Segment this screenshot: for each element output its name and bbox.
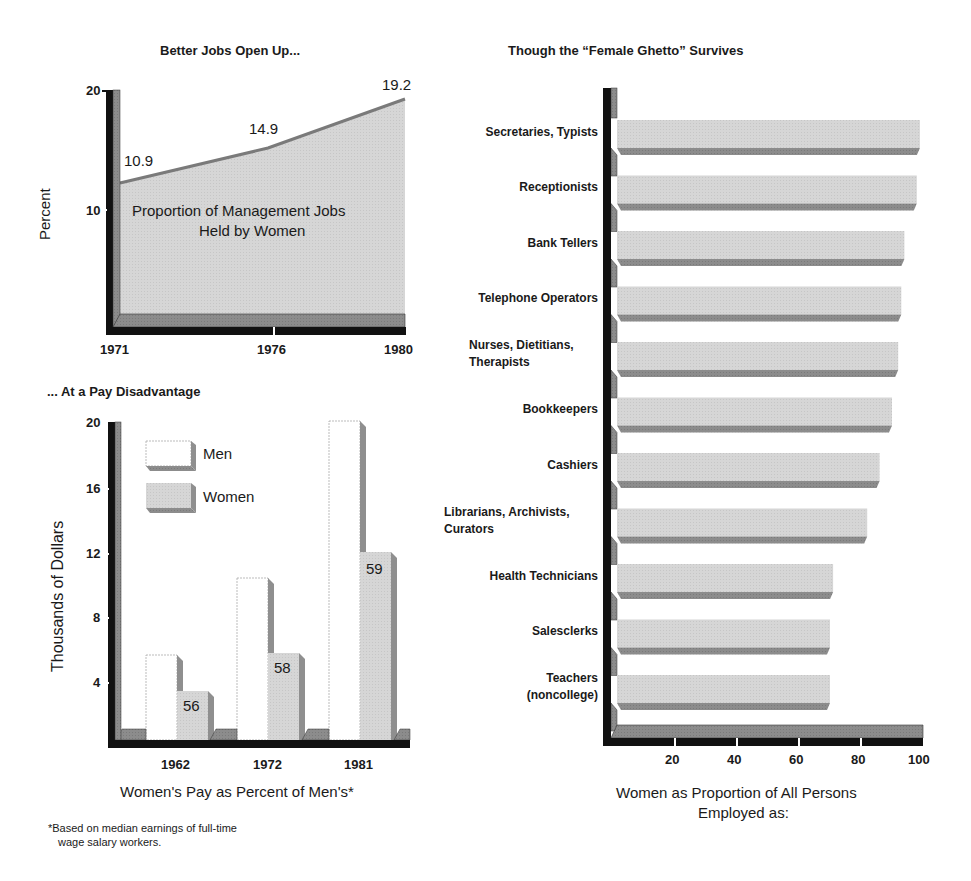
pay-y-tick-16: 16 [86, 481, 100, 496]
occupation-label: Cashiers [547, 457, 598, 474]
point-label-1971: 10.9 [124, 152, 153, 169]
x-tick-1971: 1971 [100, 342, 129, 357]
legend-women-label: Women [203, 488, 254, 505]
legend-women-swatch [146, 483, 196, 513]
x-tick-1980: 1980 [384, 342, 413, 357]
occupation-bar [617, 176, 917, 204]
area-label-line1: Proportion of Management Jobs [132, 202, 345, 219]
occupation-bar [617, 675, 830, 703]
occupation-bar [617, 620, 830, 648]
occupation-label: Bookkeepers [523, 401, 598, 418]
pay-y-axis-label: Thousands of Dollars [49, 521, 67, 672]
point-label-1976: 14.9 [249, 120, 278, 137]
y-axis-dark [106, 90, 113, 335]
occ-x-axis-dark [603, 738, 923, 746]
footnote-line2: wage salary workers. [58, 836, 161, 848]
occupation-label: Receptionists [519, 179, 598, 196]
pay-x-tick-1981: 1981 [344, 757, 373, 772]
pay-y-tick-12: 12 [86, 546, 100, 561]
occupation-label: Salesclerks [532, 623, 598, 640]
occupation-label: Bank Tellers [528, 235, 598, 252]
occupation-bar [617, 231, 904, 259]
pay-x-axis-label: Women's Pay as Percent of Men's* [120, 783, 354, 800]
occ-x-tick-40: 40 [727, 752, 741, 767]
y-axis-label-percent: Percent [36, 188, 53, 240]
occupation-label: Librarians, Archivists,Curators [444, 504, 570, 538]
area-label-line2: Held by Women [199, 222, 305, 239]
pay-y-axis-side [115, 422, 121, 740]
pct-label-1962: 56 [183, 697, 200, 714]
occupation-bars [611, 120, 920, 731]
pct-label-1972: 58 [274, 659, 291, 676]
occupation-bar [617, 342, 898, 370]
footnote-line1: *Based on median earnings of full-time [48, 822, 237, 834]
pay-y-tick-8: 8 [93, 610, 100, 625]
occupation-bar [617, 398, 892, 426]
pct-label-1981: 59 [366, 560, 383, 577]
pay-chart-title: ... At a Pay Disadvantage [47, 384, 200, 399]
occupation-bar [617, 453, 880, 481]
occ-x-axis-label-line1: Women as Proportion of All Persons [616, 784, 857, 801]
bar-men-1972 [237, 578, 268, 740]
occ-x-tick-80: 80 [851, 752, 865, 767]
pay-x-tick-1972: 1972 [253, 757, 282, 772]
x-tick-1976: 1976 [257, 342, 286, 357]
pay-y-tick-4: 4 [93, 675, 100, 690]
legend-men-label: Men [203, 445, 232, 462]
x-axis-floor [113, 314, 405, 327]
occupation-bar [617, 287, 901, 315]
occ-x-tick-60: 60 [789, 752, 803, 767]
bar-men-1981 [329, 421, 360, 740]
occupation-chart-title: Though the “Female Ghetto” Survives [508, 43, 743, 58]
legend-men-swatch [146, 441, 196, 471]
pay-x-axis-dark [108, 740, 410, 748]
occ-floor [611, 725, 923, 738]
bar-men-1962 [146, 655, 177, 740]
bar-women-1981 [360, 552, 391, 740]
pay-x-tick-1962: 1962 [161, 757, 190, 772]
occupation-label: Nurses, Dietitians,Therapists [469, 337, 574, 371]
occupation-label: Secretaries, Typists [485, 124, 598, 141]
occ-y-axis-dark [603, 88, 611, 745]
occ-x-tick-20: 20 [665, 752, 679, 767]
occupation-label: Health Technicians [490, 568, 598, 585]
occupation-label: Teachers(noncollege) [527, 670, 598, 704]
occ-x-axis-label-line2: Employed as: [698, 804, 789, 821]
pay-y-axis-dark [108, 422, 115, 748]
occupation-bar [617, 509, 867, 537]
y-tick-10: 10 [86, 203, 100, 218]
x-axis-dark [106, 327, 406, 335]
occupation-label: Telephone Operators [478, 290, 598, 307]
pay-y-tick-20: 20 [86, 415, 100, 430]
point-label-1980: 19.2 [382, 76, 411, 93]
occ-x-tick-100: 100 [908, 752, 930, 767]
y-axis-side [113, 90, 120, 327]
occupation-bar [617, 564, 833, 592]
y-tick-20: 20 [86, 83, 100, 98]
occ-y-axis-side [611, 88, 617, 118]
occupation-bar [617, 120, 920, 148]
